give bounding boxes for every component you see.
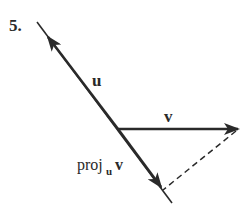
label-proj-subscript: u [106,165,112,177]
label-proj-vector: v [115,156,123,173]
perpendicular-dashed-line [163,131,236,190]
vector-proj-u-v [118,129,161,187]
label-u: u [92,71,101,90]
problem-number: 5. [9,16,22,35]
vector-projection-diagram: 5. u v proj u v [0,0,251,209]
vector-u [48,37,118,129]
label-proj-u-v: proj u v [77,156,123,177]
label-v: v [164,107,173,126]
label-proj: proj [77,156,103,174]
